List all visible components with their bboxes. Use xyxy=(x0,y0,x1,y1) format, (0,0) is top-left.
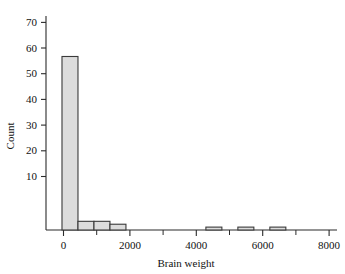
y-tick-label: 60 xyxy=(26,42,38,54)
x-tick-label: 4000 xyxy=(185,239,208,251)
histogram-bar xyxy=(78,221,94,230)
y-tick-label: 50 xyxy=(26,67,38,79)
figure-background xyxy=(0,0,345,274)
histogram-bar xyxy=(270,227,286,230)
y-tick-label: 40 xyxy=(26,93,38,105)
x-axis-title: Brain weight xyxy=(157,257,214,269)
histogram-bar xyxy=(110,224,126,230)
y-tick-label: 10 xyxy=(26,170,38,182)
y-tick-label: 20 xyxy=(26,144,38,156)
y-axis-title: Count xyxy=(4,123,16,150)
histogram-bar xyxy=(238,227,254,230)
histogram-figure: 70 60 50 40 30 20 xyxy=(0,0,345,274)
histogram-bar xyxy=(62,56,78,230)
x-tick-label: 8000 xyxy=(318,239,341,251)
y-tick-label: 70 xyxy=(26,16,38,28)
x-tick-label: 2000 xyxy=(119,239,142,251)
x-tick-label: 6000 xyxy=(252,239,275,251)
x-tick-label: 0 xyxy=(61,239,67,251)
y-tick-label: 30 xyxy=(26,119,38,131)
histogram-bar xyxy=(94,221,110,230)
histogram-bar xyxy=(206,227,222,230)
histogram-svg: 70 60 50 40 30 20 xyxy=(0,0,345,274)
